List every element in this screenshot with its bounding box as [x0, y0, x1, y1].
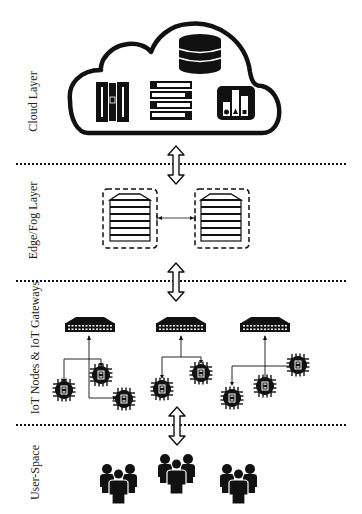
- server-rack-icon: [95, 81, 131, 123]
- iot-layer-graphics: [0, 280, 362, 420]
- storage-list-icon: [149, 80, 193, 122]
- analytics-chart-icon: [216, 85, 256, 121]
- layer-label-user: User-Space: [28, 428, 43, 514]
- database-icon: [178, 34, 222, 74]
- user-group-2: [157, 453, 197, 495]
- bidirectional-arrow-cloud-edge: [166, 145, 186, 185]
- fog-node-1[interactable]: [102, 188, 158, 250]
- gateway-1-icon: [65, 317, 115, 332]
- user-group-1: [99, 463, 139, 505]
- fog-node-2[interactable]: [194, 188, 250, 250]
- fog-node-link: [156, 213, 196, 223]
- layer-label-edge: Edge/Fog Layer: [26, 166, 41, 276]
- cloud-layer-shape: [0, 0, 362, 150]
- user-group-3: [219, 463, 259, 505]
